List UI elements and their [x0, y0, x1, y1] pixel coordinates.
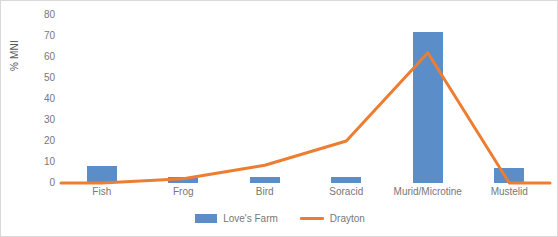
y-axis-tick-label: 70 [29, 31, 55, 41]
y-axis-tick-label: 20 [29, 136, 55, 146]
x-axis-tick-label: Frog [143, 186, 225, 197]
legend-item-loves-farm[interactable]: Love's Farm [195, 213, 278, 224]
legend-bar-swatch-icon [195, 214, 217, 223]
legend-line-swatch-icon [300, 217, 324, 220]
x-axis-tick-label: Soracid [306, 186, 388, 197]
chart-legend: Love's Farm Drayton [1, 213, 558, 224]
y-axis-tick-label: 80 [29, 10, 55, 20]
line-series-drayton [61, 15, 550, 183]
x-axis-tick-label: Bird [224, 186, 306, 197]
legend-item-label: Drayton [330, 213, 365, 224]
chart-container: % MNI 80706050403020100 FishFrogBirdSora… [0, 0, 558, 237]
y-axis-tick-labels: 80706050403020100 [29, 1, 55, 237]
x-axis-tick-label: Murid/Microtine [387, 186, 469, 197]
legend-item-label: Love's Farm [223, 213, 278, 224]
line-path-svg [61, 15, 550, 183]
x-axis-tick-label: Fish [61, 186, 143, 197]
y-axis-tick-label: 30 [29, 115, 55, 125]
x-axis-tick-label: Mustelid [469, 186, 551, 197]
y-axis-tick-label: 10 [29, 157, 55, 167]
y-axis-tick-label: 0 [29, 178, 55, 188]
y-axis-title: % MNI [9, 57, 20, 71]
y-axis-tick-label: 40 [29, 94, 55, 104]
y-axis-tick-label: 50 [29, 73, 55, 83]
plot-area [61, 15, 550, 183]
x-axis-category-labels: FishFrogBirdSoracidMurid/MicrotineMustel… [61, 186, 550, 204]
y-axis-tick-label: 60 [29, 52, 55, 62]
line-path [61, 53, 550, 183]
legend-item-drayton[interactable]: Drayton [300, 213, 365, 224]
